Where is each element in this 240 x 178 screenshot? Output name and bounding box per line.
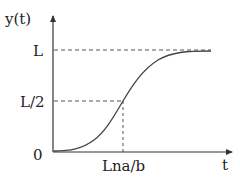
L-label: L	[33, 42, 43, 60]
origin-label: 0	[33, 146, 43, 164]
half-L-label: L/2	[20, 93, 45, 111]
logistic-chart: y(t) t 0 L L/2 Lna/b	[0, 0, 240, 178]
x-axis-label: t	[222, 156, 228, 174]
y-axis-label: y(t)	[4, 10, 31, 28]
inflection-t-label: Lna/b	[102, 157, 145, 175]
